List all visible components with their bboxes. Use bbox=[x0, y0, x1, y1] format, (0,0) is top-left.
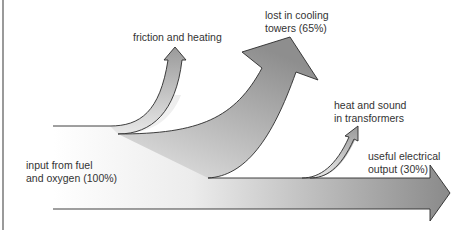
label-input-line2: and oxygen (100%) bbox=[26, 172, 117, 185]
label-output-line1: useful electrical bbox=[368, 150, 440, 163]
label-transformers-line2: in transformers bbox=[334, 112, 406, 125]
label-input: input from fuel and oxygen (100%) bbox=[26, 159, 117, 184]
label-cooling: lost in cooling towers (65%) bbox=[265, 9, 329, 34]
label-input-line1: input from fuel bbox=[26, 159, 117, 172]
label-transformers: heat and sound in transformers bbox=[334, 99, 406, 124]
label-friction: friction and heating bbox=[133, 31, 222, 44]
label-cooling-line2: towers (65%) bbox=[265, 22, 329, 35]
label-cooling-line1: lost in cooling bbox=[265, 9, 329, 22]
label-output: useful electrical output (30%) bbox=[368, 150, 440, 175]
transformer-arrow bbox=[302, 126, 358, 178]
friction-arrow bbox=[110, 47, 186, 134]
label-output-line2: output (30%) bbox=[368, 163, 440, 176]
label-transformers-line1: heat and sound bbox=[334, 99, 406, 112]
